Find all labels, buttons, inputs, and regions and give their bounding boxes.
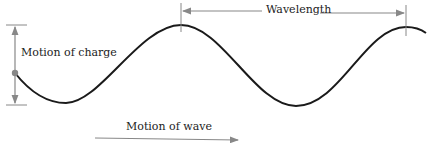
wave-motion-arrow: [95, 138, 238, 140]
wavelength-label: Wavelength: [266, 3, 331, 16]
charge-motion-label: Motion of charge: [21, 46, 117, 59]
wave-motion-label: Motion of wave: [126, 120, 212, 133]
wave-curve: [15, 25, 426, 106]
charge-dot: [12, 70, 18, 76]
wave-diagram: [0, 0, 431, 150]
charge-motion-arrow: [6, 25, 27, 105]
